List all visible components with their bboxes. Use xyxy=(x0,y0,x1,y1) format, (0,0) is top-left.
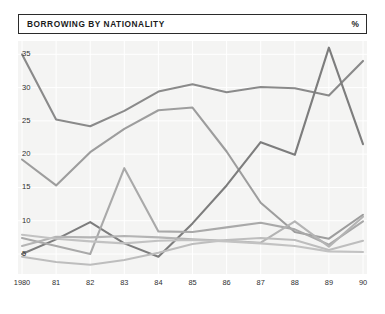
x-axis-tick-label: 81 xyxy=(52,279,60,286)
unit-label: % xyxy=(352,20,359,28)
x-axis-tick-label: 86 xyxy=(222,279,230,286)
x-axis-tick-label: 85 xyxy=(188,279,196,286)
x-axis-tick-label: 1980 xyxy=(14,279,30,286)
chart-container: BORROWING BY NATIONALITY % 5101520253035… xyxy=(0,0,385,314)
x-axis-tick-label: 82 xyxy=(86,279,94,286)
x-axis-tick-label: 87 xyxy=(257,279,265,286)
x-axis-tick-label: 88 xyxy=(291,279,299,286)
x-axis-labels: 198081828384858687888990 xyxy=(0,279,385,295)
x-axis-tick-label: 83 xyxy=(120,279,128,286)
x-axis-tick-label: 89 xyxy=(325,279,333,286)
plot-area xyxy=(18,41,367,274)
page-title: BORROWING BY NATIONALITY xyxy=(27,20,165,28)
x-axis-tick-label: 84 xyxy=(154,279,162,286)
line-chart-svg xyxy=(18,41,367,274)
chart-title-bar: BORROWING BY NATIONALITY % xyxy=(18,14,367,34)
x-axis-tick-label: 90 xyxy=(359,279,367,286)
